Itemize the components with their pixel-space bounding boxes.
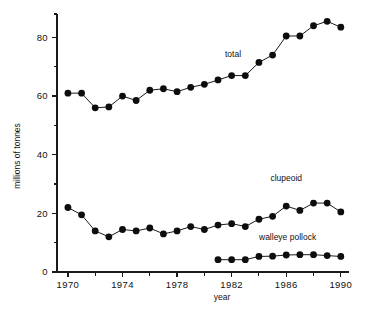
data-point-marker: [228, 256, 235, 263]
x-tick-label: 1970: [57, 279, 80, 290]
series-annotations-group: totalclupeoidwalleye pollock: [225, 49, 317, 243]
data-point-marker: [215, 77, 222, 84]
data-point-marker: [174, 88, 181, 95]
x-tick-label: 1990: [329, 279, 352, 290]
data-point-marker: [146, 87, 153, 94]
x-tick-label: 1982: [220, 279, 243, 290]
data-point-marker: [215, 222, 222, 229]
data-point-marker: [228, 220, 235, 227]
series-group: [65, 18, 345, 263]
line-chart-canvas: 020406080197019741978198219861990 totalc…: [0, 0, 366, 311]
data-point-marker: [256, 216, 263, 223]
y-axis-title: millions of tonnes: [12, 123, 22, 189]
data-point-marker: [310, 251, 317, 258]
axes-group: 020406080197019741978198219861990: [37, 14, 353, 290]
data-point-marker: [324, 252, 331, 259]
data-point-marker: [133, 97, 140, 104]
x-axis-title: year: [214, 292, 231, 302]
y-tick-label: 80: [37, 32, 48, 43]
y-tick-label: 20: [37, 208, 48, 219]
data-point-marker: [310, 22, 317, 29]
data-point-marker: [242, 72, 249, 79]
data-point-marker: [242, 256, 249, 263]
y-tick-label: 0: [42, 266, 48, 277]
data-point-marker: [228, 72, 235, 79]
x-tick-label: 1974: [111, 279, 134, 290]
data-point-marker: [92, 104, 99, 111]
data-point-marker: [201, 226, 208, 233]
data-point-marker: [146, 225, 153, 232]
data-point-marker: [283, 252, 290, 259]
data-point-marker: [269, 213, 276, 220]
data-point-marker: [283, 33, 290, 40]
data-point-marker: [105, 104, 112, 111]
data-point-marker: [337, 253, 344, 260]
fisheries-catch-chart-figure: 020406080197019741978198219861990 totalc…: [0, 0, 366, 311]
data-point-marker: [119, 93, 126, 100]
data-point-marker: [269, 52, 276, 59]
data-point-marker: [78, 211, 85, 218]
series-label-walleye-pollock: walleye pollock: [258, 232, 317, 242]
data-point-marker: [174, 228, 181, 235]
y-tick-label: 60: [37, 90, 48, 101]
data-point-marker: [92, 228, 99, 235]
series-total: [65, 18, 345, 111]
series-label-total: total: [225, 49, 241, 59]
data-point-marker: [78, 90, 85, 97]
data-point-marker: [133, 228, 140, 235]
y-tick-label: 40: [37, 149, 48, 160]
data-point-marker: [119, 226, 126, 233]
data-point-marker: [337, 209, 344, 216]
data-point-marker: [187, 223, 194, 230]
data-point-marker: [160, 85, 167, 92]
data-point-marker: [269, 253, 276, 260]
data-point-marker: [65, 204, 72, 211]
data-point-marker: [256, 59, 263, 66]
data-point-marker: [296, 207, 303, 214]
data-point-marker: [283, 203, 290, 210]
data-point-marker: [187, 84, 194, 91]
data-point-marker: [337, 24, 344, 31]
data-point-marker: [296, 33, 303, 40]
data-point-marker: [324, 200, 331, 207]
data-point-marker: [324, 18, 331, 25]
data-point-marker: [296, 251, 303, 258]
data-point-marker: [215, 256, 222, 263]
data-point-marker: [242, 223, 249, 230]
data-point-marker: [160, 230, 167, 237]
data-point-marker: [310, 200, 317, 207]
series-walleye-pollock: [215, 251, 345, 263]
series-label-clupeoid: clupeoid: [270, 173, 302, 183]
data-point-marker: [105, 233, 112, 240]
data-point-marker: [201, 81, 208, 88]
x-tick-label: 1978: [166, 279, 189, 290]
data-point-marker: [65, 90, 72, 97]
series-polyline: [218, 255, 341, 260]
data-point-marker: [256, 253, 263, 260]
x-tick-label: 1986: [275, 279, 298, 290]
